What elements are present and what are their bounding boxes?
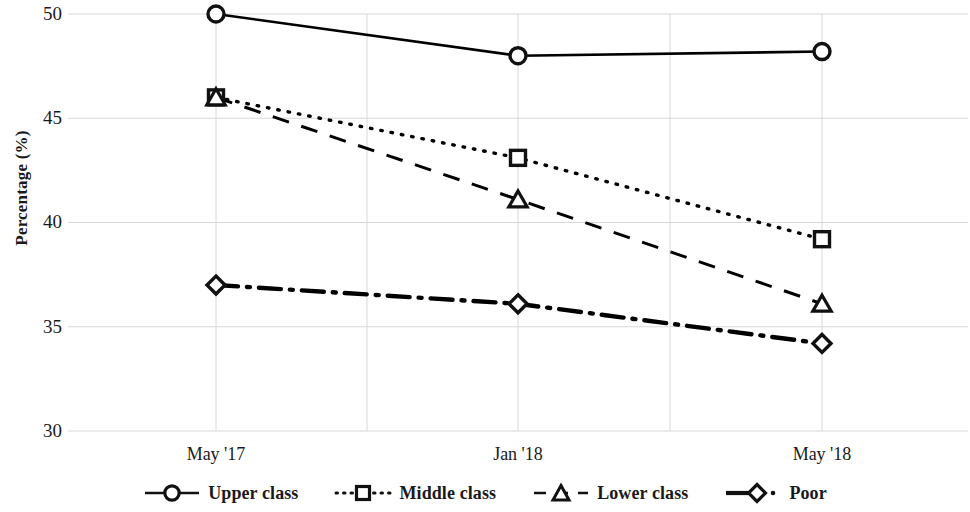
data-point-poor-2 bbox=[813, 334, 831, 352]
plot-area bbox=[0, 0, 970, 460]
legend-item-poor[interactable]: Poor bbox=[724, 482, 826, 504]
circle-marker-icon bbox=[143, 482, 201, 504]
data-point-lower-class-1 bbox=[509, 191, 527, 207]
data-point-middle-class-1 bbox=[511, 150, 526, 165]
data-point-upper-class-0 bbox=[208, 6, 224, 22]
triangle-marker-icon bbox=[532, 482, 590, 504]
legend-label-poor: Poor bbox=[789, 483, 826, 504]
data-point-upper-class-1 bbox=[510, 48, 526, 64]
series-markers bbox=[207, 6, 831, 352]
diamond-marker-icon bbox=[724, 482, 782, 504]
chart-legend: Upper class Middle class Lower class Poo… bbox=[0, 474, 970, 512]
legend-label-upper-class: Upper class bbox=[208, 483, 298, 504]
data-point-poor-0 bbox=[207, 276, 225, 294]
gridlines bbox=[68, 14, 968, 431]
data-point-middle-class-2 bbox=[815, 232, 830, 247]
legend-item-upper-class[interactable]: Upper class bbox=[143, 482, 298, 504]
data-point-poor-1 bbox=[509, 295, 527, 313]
line-chart: Percentage (%) 50 45 40 35 30 May '17 Ja… bbox=[0, 0, 970, 512]
legend-label-middle-class: Middle class bbox=[399, 483, 496, 504]
legend-item-lower-class[interactable]: Lower class bbox=[532, 482, 688, 504]
legend-item-middle-class[interactable]: Middle class bbox=[334, 482, 496, 504]
legend-label-lower-class: Lower class bbox=[597, 483, 688, 504]
data-point-upper-class-2 bbox=[814, 44, 830, 60]
square-marker-icon bbox=[334, 482, 392, 504]
data-point-lower-class-2 bbox=[813, 295, 831, 311]
